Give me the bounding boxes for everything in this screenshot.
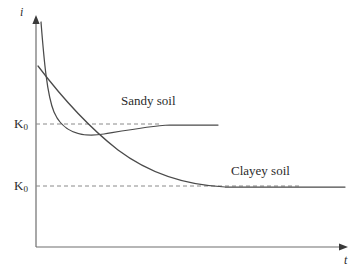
y-tick-k0-clayey-base: K <box>14 178 23 193</box>
y-axis-arrow-icon <box>32 15 39 24</box>
sandy-soil-label: Sandy soil <box>121 94 176 107</box>
y-tick-label-k0-clayey: K0 <box>14 179 28 194</box>
y-tick-label-k0-sandy: K0 <box>14 117 28 132</box>
y-tick-k0-sandy-base: K <box>14 116 23 131</box>
clayey-soil-label: Clayey soil <box>231 164 290 177</box>
y-tick-k0-sandy-subscript: 0 <box>23 122 28 132</box>
x-axis <box>36 243 348 250</box>
x-axis-label: t <box>344 254 347 266</box>
y-axis-label: i <box>20 6 23 18</box>
chart-canvas <box>0 0 364 271</box>
y-tick-k0-clayey-subscript: 0 <box>23 184 28 194</box>
x-axis-arrow-icon <box>339 243 348 250</box>
y-axis <box>32 15 39 247</box>
series-curve-clayey-soil <box>38 66 345 187</box>
infiltration-rate-chart: i t K0 K0 Sandy soil Clayey soil <box>0 0 364 271</box>
series-curve-sandy-soil <box>41 22 218 135</box>
